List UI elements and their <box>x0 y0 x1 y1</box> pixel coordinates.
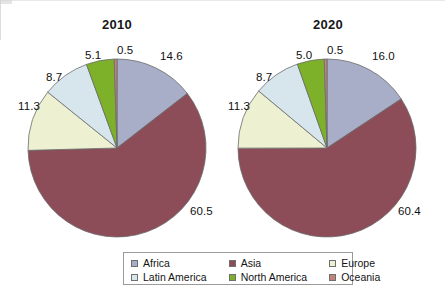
pie-chart-2020 <box>236 57 418 239</box>
pie-value-2020-oceania: 0.5 <box>327 44 343 56</box>
pie-value-2010-asia: 60.5 <box>190 205 213 217</box>
legend-item-oceania[interactable]: Oceania <box>329 271 380 283</box>
legend-label-asia: Asia <box>241 257 261 269</box>
pie-svg-2020 <box>236 57 418 239</box>
figure-root: is a form ame along sire. of change occu… <box>0 0 445 302</box>
legend-label-oceania: Oceania <box>341 271 380 283</box>
legend-label-europe: Europe <box>341 257 375 269</box>
scan-corner-mark <box>0 0 12 4</box>
legend-item-europe[interactable]: Europe <box>329 257 380 269</box>
pie-value-2010-north-america: 5.1 <box>85 49 101 61</box>
pie-value-2020-europe: 11.3 <box>228 100 250 112</box>
legend-label-latin-america: Latin America <box>143 271 207 283</box>
legend-label-africa: Africa <box>143 257 170 269</box>
pie-value-2010-africa: 14.6 <box>160 50 183 62</box>
legend-swatch-africa-icon <box>131 260 138 267</box>
pie-value-2020-asia: 60.4 <box>398 205 421 217</box>
pie-value-2010-latin-america: 8.7 <box>46 71 62 83</box>
legend-item-north-america[interactable]: North America <box>229 271 308 283</box>
pie-value-2010-europe: 11.3 <box>18 100 40 112</box>
pie-value-2020-africa: 16.0 <box>372 50 395 62</box>
pie-title-2010: 2010 <box>67 17 167 32</box>
legend-item-africa[interactable]: Africa <box>131 257 207 269</box>
legend-item-latin-america[interactable]: Latin America <box>131 271 207 283</box>
legend-swatch-asia-icon <box>229 260 236 267</box>
legend-swatch-north-america-icon <box>229 274 236 281</box>
legend-swatch-oceania-icon <box>329 274 336 281</box>
legend-item-asia[interactable]: Asia <box>229 257 308 269</box>
pie-chart-2010 <box>26 57 208 239</box>
pie-svg-2010 <box>26 57 208 239</box>
legend-swatch-latin-america-icon <box>131 274 138 281</box>
legend-label-north-america: North America <box>241 271 308 283</box>
pie-title-2020: 2020 <box>278 17 378 32</box>
scan-edge-top <box>0 0 445 1</box>
pie-value-2010-oceania: 0.5 <box>117 44 133 56</box>
chart-legend: Africa Asia Europe Latin America North A… <box>123 252 353 285</box>
pie-value-2020-north-america: 5.0 <box>296 49 312 61</box>
legend-grid: Africa Asia Europe Latin America North A… <box>131 257 344 283</box>
legend-swatch-europe-icon <box>329 260 336 267</box>
pie-value-2020-latin-america: 8.7 <box>256 71 272 83</box>
scan-edge-left <box>0 0 1 40</box>
